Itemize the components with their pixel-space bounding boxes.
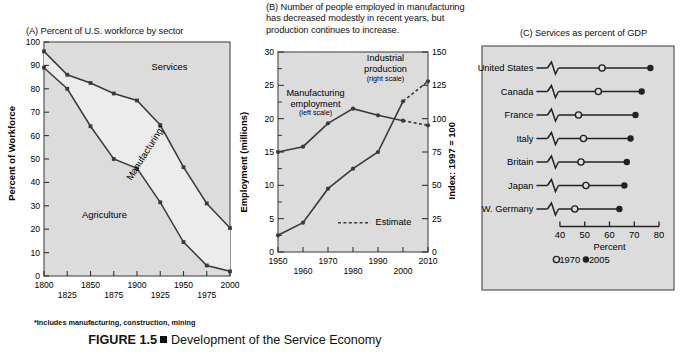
panel-a-plot: 0102030405060708090100180018501900195020… bbox=[8, 38, 236, 306]
panel-c-x-tick-label: 60 bbox=[604, 230, 614, 240]
figure-caption: FIGURE 1.5Development of the Service Eco… bbox=[0, 333, 470, 347]
data-marker bbox=[42, 49, 46, 53]
panel-a-y-tick-label: 100 bbox=[26, 37, 41, 47]
panel-c-row-label: United States bbox=[478, 63, 534, 73]
data-marker bbox=[135, 99, 139, 103]
panel-b-y-left-tick-label: 15 bbox=[264, 147, 274, 157]
marker-1970 bbox=[599, 65, 605, 71]
marker-1970 bbox=[578, 159, 584, 165]
panel-b-label-left-scale: (left scale) bbox=[299, 108, 332, 117]
panel-a-x-tick-label: 1925 bbox=[151, 290, 170, 300]
data-marker bbox=[401, 119, 405, 123]
marker-2005 bbox=[616, 206, 622, 212]
panel-b-label-manufacturing-employment-2: employment bbox=[290, 99, 340, 109]
marker-1970 bbox=[595, 88, 601, 94]
data-marker bbox=[205, 202, 209, 206]
data-marker bbox=[89, 124, 93, 128]
panel-b-y-left-tick-label: 30 bbox=[264, 47, 274, 57]
panel-a-label-agriculture: Agriculture bbox=[82, 209, 127, 220]
marker-2005 bbox=[627, 135, 633, 141]
data-marker bbox=[326, 187, 330, 191]
panel-a-y-tick-label: 50 bbox=[30, 154, 40, 164]
figure-caption-text: Development of the Service Economy bbox=[171, 333, 382, 347]
figure-root: (A) Percent of U.S. workforce by sector … bbox=[0, 0, 682, 354]
panel-b-label-industrial-production-2: production bbox=[364, 64, 407, 74]
marker-1970 bbox=[580, 135, 586, 141]
marker-2005 bbox=[647, 65, 653, 71]
panel-b-y-left-tick-label: 20 bbox=[264, 114, 274, 124]
marker-1970 bbox=[572, 206, 578, 212]
data-marker bbox=[301, 221, 305, 225]
data-marker bbox=[301, 145, 305, 149]
data-marker bbox=[65, 73, 69, 77]
square-bullet-icon bbox=[160, 336, 167, 343]
panel-b-label-industrial-production: Industrial bbox=[367, 53, 404, 63]
marker-2005 bbox=[638, 88, 644, 94]
panel-c-plot: United StatesCanadaFranceItalyBritainJap… bbox=[478, 42, 678, 292]
data-marker bbox=[112, 92, 116, 96]
panel-a-y-tick-label: 70 bbox=[30, 107, 40, 117]
panel-a-title: (A) Percent of U.S. workforce by sector bbox=[26, 26, 236, 37]
data-marker bbox=[205, 264, 209, 268]
data-marker bbox=[65, 87, 69, 91]
figure-number: FIGURE 1.5 bbox=[88, 333, 157, 347]
panel-a-x-tick-label: 1900 bbox=[127, 280, 146, 290]
panel-a-y-tick-label: 10 bbox=[30, 248, 40, 258]
panel-c-x-axis-label: Percent bbox=[593, 242, 625, 252]
panel-b-y-right-tick-label: 75 bbox=[432, 147, 442, 157]
panel-a-y-tick-label: 60 bbox=[30, 131, 40, 141]
data-marker bbox=[351, 167, 355, 171]
marker-2005 bbox=[632, 112, 638, 118]
panel-a-footnote: *Includes manufacturing, construction, m… bbox=[34, 318, 195, 327]
panel-c-plot-area bbox=[482, 46, 674, 290]
panel-a: (A) Percent of U.S. workforce by sector … bbox=[8, 26, 236, 316]
panel-c: (C) Services as percent of GDP United St… bbox=[478, 28, 678, 296]
panel-a-x-tick-label: 1825 bbox=[58, 290, 77, 300]
panel-b-label-manufacturing-employment: Manufacturing bbox=[286, 88, 344, 98]
panel-c-row-label: Italy bbox=[516, 134, 533, 144]
panel-b-x-tick-label: 1960 bbox=[293, 266, 312, 276]
data-marker bbox=[426, 123, 430, 127]
panel-a-x-tick-label: 1800 bbox=[34, 280, 53, 290]
data-marker bbox=[376, 113, 380, 117]
panel-b-y-left-tick-label: 10 bbox=[264, 180, 274, 190]
panel-c-x-tick-label: 40 bbox=[555, 230, 565, 240]
panel-a-y-tick-label: 20 bbox=[30, 224, 40, 234]
panel-a-y-tick-label: 80 bbox=[30, 84, 40, 94]
legend-label-2005: 2005 bbox=[589, 255, 610, 265]
estimate-legend-label: Estimate bbox=[376, 217, 412, 227]
data-marker bbox=[401, 99, 405, 103]
panel-a-x-tick-label: 1950 bbox=[174, 280, 193, 290]
panel-b-y-right-tick-label: 125 bbox=[432, 80, 447, 90]
panel-a-x-tick-label: 1875 bbox=[104, 290, 123, 300]
panel-b-x-tick-label: 1990 bbox=[368, 256, 387, 266]
marker-2005 bbox=[624, 159, 630, 165]
panel-b-x-tick-label: 2010 bbox=[418, 256, 437, 266]
panel-b: (B) Number of people employed in manufac… bbox=[240, 2, 468, 316]
data-marker bbox=[182, 165, 186, 169]
marker-1970 bbox=[575, 112, 581, 118]
panel-b-x-tick-label: 1970 bbox=[318, 256, 337, 266]
data-marker bbox=[426, 79, 430, 83]
legend-label-1970: 1970 bbox=[559, 255, 580, 265]
panel-c-row-label: W. Germany bbox=[482, 204, 534, 214]
panel-b-y-left-tick-label: 5 bbox=[269, 214, 274, 224]
panel-b-y-left-tick-label: 25 bbox=[264, 80, 274, 90]
panel-b-label-right-scale: (right scale) bbox=[367, 74, 405, 83]
panel-b-y-right-tick-label: 150 bbox=[432, 47, 447, 57]
panel-c-x-tick-label: 80 bbox=[654, 230, 664, 240]
panel-a-label-services: Services bbox=[152, 61, 188, 72]
panel-b-plot: 0510152025300255075100125150195019701990… bbox=[240, 48, 468, 316]
data-marker bbox=[42, 66, 46, 70]
panel-a-y-tick-label: 90 bbox=[30, 60, 40, 70]
data-marker bbox=[89, 81, 93, 85]
panel-c-row-label: Canada bbox=[501, 87, 534, 97]
data-marker bbox=[182, 240, 186, 244]
panel-c-x-tick-label: 70 bbox=[629, 230, 639, 240]
data-marker bbox=[351, 107, 355, 111]
panel-b-x-tick-label: 1950 bbox=[268, 256, 287, 266]
panel-c-row-label: France bbox=[505, 110, 534, 120]
panel-a-x-tick-label: 1850 bbox=[81, 280, 100, 290]
panel-b-y-right-tick-label: 25 bbox=[432, 214, 442, 224]
panel-b-y-right-tick-label: 100 bbox=[432, 114, 447, 124]
